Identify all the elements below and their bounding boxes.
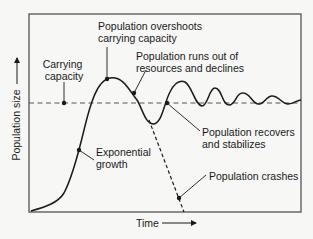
y-axis-label: Population size <box>10 89 22 160</box>
label-crashes: Population crashes <box>209 170 298 182</box>
label-overshoot: Population overshoots carrying capacity <box>98 20 205 44</box>
label-recovers: Population recovers and stabilizes <box>202 126 298 150</box>
label-exponential: Exponential growth <box>96 146 154 170</box>
label-carrying-capacity: Carrying capacity <box>43 58 86 82</box>
leader-recovers <box>167 103 200 131</box>
label-runs-out: Population runs out of resources and dec… <box>136 50 244 74</box>
population-diagram: Carrying capacity Population overshoots … <box>0 0 313 239</box>
x-axis-label: Time <box>136 217 159 229</box>
leader-exponential <box>79 150 94 160</box>
y-axis-label-group: Population size <box>10 89 22 160</box>
leader-crashes <box>179 175 206 198</box>
